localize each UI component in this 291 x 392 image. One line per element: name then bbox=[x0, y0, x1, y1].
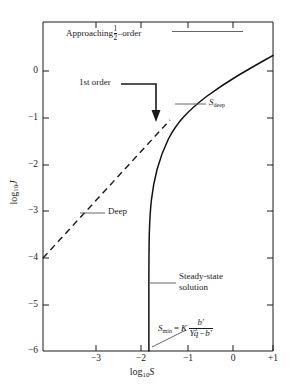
axes-frame bbox=[43, 22, 273, 351]
denominator-q-hat: q̂ bbox=[194, 328, 199, 338]
coefficient-k: K bbox=[181, 323, 187, 333]
annotation-first-order: 1st order bbox=[79, 78, 111, 87]
s-min-subscript: min bbox=[163, 328, 173, 334]
y-axis-title-variable: J bbox=[8, 180, 19, 184]
plot-canvas bbox=[0, 0, 291, 392]
y-tick-label-minus6: −6 bbox=[18, 346, 38, 356]
figure-container: −3 −2 −1 0 +1 0 −1 −2 −3 −4 −5 −6 log10S… bbox=[0, 0, 291, 392]
formula-numerator: b′ bbox=[189, 318, 213, 328]
y-axis-title: log10J bbox=[9, 162, 20, 222]
y-tick-label-0: 0 bbox=[18, 66, 38, 76]
x-axis-title-variable: S bbox=[149, 366, 154, 377]
x-axis-title-base: 10 bbox=[142, 371, 149, 378]
annotation-s-deep: Sdeep bbox=[209, 98, 225, 108]
annotation-deep: Deep bbox=[108, 207, 127, 216]
y-tick-label-minus2: −2 bbox=[18, 160, 38, 170]
formula-fraction: b′Yq̂−b′ bbox=[189, 318, 213, 338]
y-axis-ticks bbox=[43, 71, 273, 305]
denominator-minus: − bbox=[199, 328, 204, 338]
formula-denominator: Yq̂−b′ bbox=[189, 328, 213, 339]
x-axis-title-log: log bbox=[130, 366, 143, 377]
annotation-s-min-formula: Smin=Kb′Yq̂−b′ bbox=[158, 318, 213, 338]
deep-asymptote-curve bbox=[43, 120, 170, 258]
fraction-denominator: 2 bbox=[114, 33, 118, 42]
s-min-equation: Smin=Kb′Yq̂−b′ bbox=[158, 318, 213, 338]
equals-sign: = bbox=[174, 323, 179, 333]
half-fraction: 12 bbox=[114, 25, 118, 41]
y-tick-label-minus5: −5 bbox=[18, 300, 38, 310]
y-axis-title-base: 10 bbox=[12, 185, 19, 192]
annotation-approaching-half-order: Approaching12–order bbox=[66, 25, 141, 41]
y-tick-label-minus3: −3 bbox=[18, 206, 38, 216]
steady-state-line-1: Steady-state bbox=[179, 271, 223, 282]
y-tick-label-minus1: −1 bbox=[18, 113, 38, 123]
fraction-numerator: 1 bbox=[114, 25, 118, 33]
y-axis-title-log: log bbox=[8, 192, 19, 205]
denominator-b-prime: b′ bbox=[205, 328, 211, 338]
x-tick-label-0: 0 bbox=[231, 354, 236, 364]
annotation-steady-state-solution: Steady-state solution bbox=[179, 271, 223, 292]
x-tick-label-minus1: −1 bbox=[183, 354, 193, 364]
order-suffix: –order bbox=[118, 28, 142, 38]
x-tick-label-minus2: −2 bbox=[136, 354, 146, 364]
x-axis-title: log10S bbox=[130, 367, 155, 378]
x-tick-label-minus3: −3 bbox=[91, 354, 101, 364]
s-deep-subscript: deep bbox=[214, 102, 226, 108]
x-tick-label-plus1: +1 bbox=[268, 354, 278, 364]
approaching-text: Approaching bbox=[66, 28, 113, 38]
steady-state-line-2: solution bbox=[179, 282, 223, 293]
first-order-leader-line bbox=[121, 84, 161, 122]
y-tick-label-minus4: −4 bbox=[18, 253, 38, 263]
